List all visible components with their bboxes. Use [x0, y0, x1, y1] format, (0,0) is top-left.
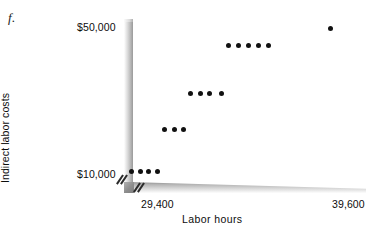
data-point	[207, 91, 212, 96]
data-point	[162, 127, 167, 132]
data-point	[328, 26, 333, 31]
data-point	[236, 43, 241, 48]
data-point	[266, 43, 271, 48]
data-point	[256, 43, 261, 48]
data-point	[188, 91, 193, 96]
data-point	[246, 43, 251, 48]
scatter-plot-figure: f. $50,000 $10,000 29,400 39,600 Indirec…	[0, 0, 384, 234]
data-point	[198, 91, 203, 96]
data-point	[226, 43, 231, 48]
data-point	[172, 127, 177, 132]
data-point	[181, 127, 186, 132]
data-point	[138, 169, 143, 174]
data-point	[155, 169, 160, 174]
data-point	[129, 169, 134, 174]
data-point	[219, 91, 224, 96]
data-point	[146, 169, 151, 174]
data-points-layer	[0, 0, 384, 234]
